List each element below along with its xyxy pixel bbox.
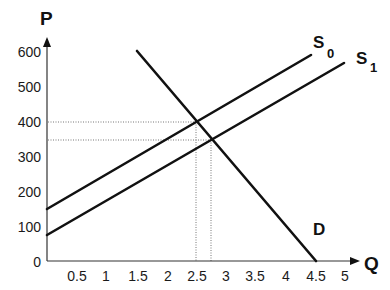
curve-label-s1-subscript: 1: [370, 60, 377, 75]
supply-curve-s1: [47, 63, 344, 235]
y-tick: 400: [18, 114, 42, 130]
x-tick: 5: [341, 268, 349, 284]
x-tick: 3.5: [245, 268, 265, 284]
y-tick: 200: [18, 184, 42, 200]
curve-label-s1: S 1: [356, 49, 377, 75]
curve-label-s0-subscript: 0: [327, 46, 334, 61]
demand-curve-d: [137, 51, 316, 261]
y-tick: 0: [33, 254, 41, 270]
x-tick: 1.5: [128, 268, 148, 284]
y-tick: 100: [18, 219, 42, 235]
curve-label-s1-main: S: [356, 49, 367, 68]
y-axis-title: P: [40, 8, 53, 29]
curve-label-s0-main: S: [313, 33, 324, 52]
x-tick: 0.5: [67, 268, 87, 284]
y-tick: 300: [18, 149, 42, 165]
x-tick: 1: [102, 268, 110, 284]
y-tick: 500: [18, 79, 42, 95]
axes: [47, 44, 352, 261]
y-axis-arrow-icon: [43, 37, 51, 47]
x-tick: 2: [164, 268, 172, 284]
y-tick: 600: [18, 44, 42, 60]
curve-label-s0: S 0: [313, 33, 334, 61]
x-tick: 3: [222, 268, 230, 284]
supply-curve-s0: [47, 55, 311, 209]
x-tick-labels: 0.5 1 1.5 2 2.5 3 3.5 4 4.5 5: [67, 268, 349, 284]
curve-label-d: D: [313, 220, 325, 239]
x-tick: 4: [282, 268, 290, 284]
x-axis-arrow-icon: [350, 257, 360, 265]
x-tick: 4.5: [306, 268, 326, 284]
supply-demand-chart: P Q 0 100 200 300 400 500 600 0.5 1 1.5 …: [0, 0, 390, 290]
x-axis-title: Q: [364, 253, 379, 274]
reference-lines: [48, 122, 211, 261]
y-tick-labels: 0 100 200 300 400 500 600: [18, 44, 42, 270]
x-tick: 2.5: [187, 268, 207, 284]
